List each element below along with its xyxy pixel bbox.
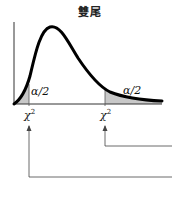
left-chi-exponent: 2 (31, 108, 35, 116)
right-chi-exponent: 2 (107, 108, 111, 116)
left-tail-label: α/2 (31, 85, 49, 98)
right-arrow-head (103, 125, 108, 131)
left-arrow-head (27, 125, 32, 131)
left-chi-symbol: χ (24, 109, 31, 122)
right-chi-symbol: χ (100, 109, 107, 122)
right-tail-label: α/2 (123, 84, 141, 97)
right-critical-value: χ2 (100, 108, 111, 122)
chi-square-diagram (0, 0, 180, 198)
left-critical-value: χ2 (24, 108, 35, 122)
